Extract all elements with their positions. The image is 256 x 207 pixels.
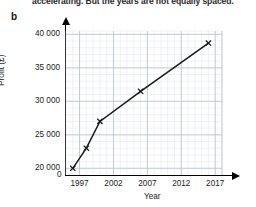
x-tick-label: 2012 (172, 180, 190, 188)
x-axis-title: Year (144, 192, 161, 201)
profit-line-chart: 20 00025 00030 00035 00040 0000 19972002… (0, 0, 256, 207)
y-tick-label: 30 000 (35, 97, 60, 105)
data-point-marker (97, 119, 102, 124)
y-axis-origin-label: 0 (57, 171, 62, 179)
x-tick-label: 2017 (206, 180, 224, 188)
plot-area (66, 31, 222, 175)
y-axis-title: Profit (£) (0, 55, 6, 86)
data-point-marker (70, 166, 75, 171)
chart-data-series (66, 31, 222, 175)
y-tick-label: 40 000 (35, 30, 60, 38)
y-tick-label: 35 000 (35, 64, 60, 72)
data-point-marker (138, 89, 143, 94)
y-tick-label: 25 000 (35, 131, 60, 139)
x-tick-label: 2007 (138, 180, 156, 188)
data-point-marker (84, 146, 89, 151)
x-tick-label: 1997 (70, 180, 88, 188)
data-point-marker (206, 40, 211, 45)
y-axis-arrow-icon (62, 17, 70, 25)
x-axis-line (65, 175, 233, 176)
x-axis-arrow-icon (232, 172, 240, 180)
x-tick-label: 2002 (104, 180, 122, 188)
